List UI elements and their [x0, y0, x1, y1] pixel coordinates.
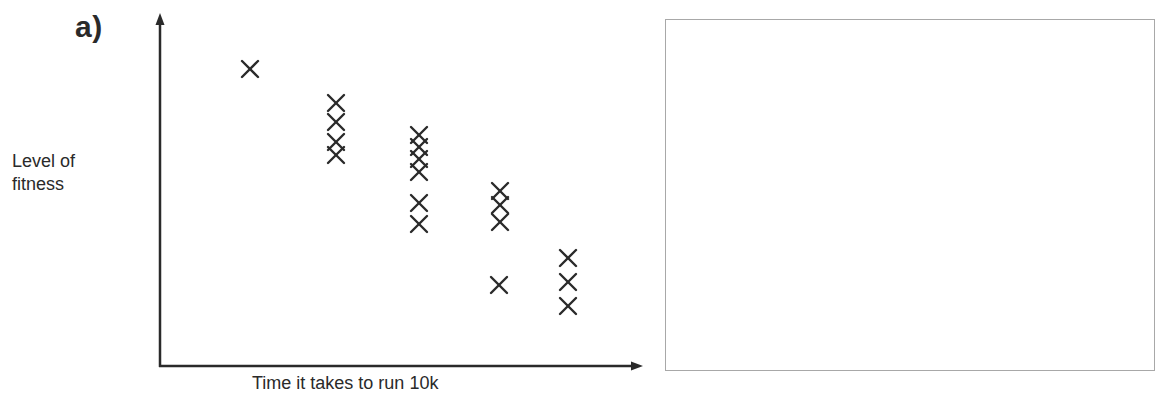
data-point-x-marker-icon — [242, 61, 258, 77]
x-axis-label: Time it takes to run 10k — [252, 372, 438, 393]
data-markers — [242, 61, 576, 314]
data-point-x-marker-icon — [411, 195, 427, 211]
data-point-x-marker-icon — [560, 250, 576, 266]
answer-box[interactable] — [665, 19, 1155, 371]
data-point-x-marker-icon — [492, 214, 508, 230]
x-axis — [159, 362, 643, 371]
y-axis-arrow-icon — [156, 13, 165, 25]
data-point-x-marker-icon — [328, 134, 344, 150]
data-point-x-marker-icon — [328, 114, 344, 130]
data-point-x-marker-icon — [328, 95, 344, 111]
x-axis-arrow-icon — [631, 362, 643, 371]
data-point-x-marker-icon — [328, 147, 344, 163]
data-point-x-marker-icon — [492, 183, 508, 199]
data-point-x-marker-icon — [560, 298, 576, 314]
data-point-x-marker-icon — [560, 274, 576, 290]
data-point-x-marker-icon — [411, 151, 427, 167]
scatter-plot — [0, 0, 660, 383]
data-point-x-marker-icon — [411, 164, 427, 180]
data-point-x-marker-icon — [492, 197, 508, 213]
y-axis — [156, 13, 165, 367]
data-point-x-marker-icon — [491, 277, 507, 293]
data-point-x-marker-icon — [411, 216, 427, 232]
